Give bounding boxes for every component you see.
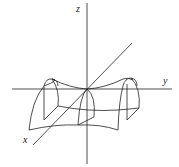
saddle-surface	[29, 78, 139, 130]
y-axis-label: y	[163, 76, 167, 86]
z-axis-label: z	[76, 4, 80, 14]
x-axis-label: x	[23, 135, 27, 145]
